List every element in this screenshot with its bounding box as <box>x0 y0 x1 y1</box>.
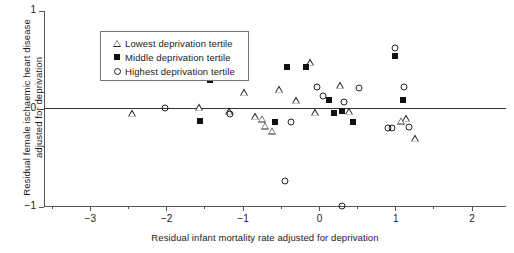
legend-label-2: Highest deprivation tertile <box>125 66 235 77</box>
legend-item-1[interactable]: Middle deprivation tertile <box>101 50 248 64</box>
legend-label-0: Lowest deprivation tertile <box>125 38 233 49</box>
triangle-open-icon <box>411 135 419 142</box>
x-tick-label-4: 1 <box>393 213 399 224</box>
square-filled-icon <box>400 97 406 103</box>
x-minor-tick-4 <box>357 206 358 209</box>
data-point <box>339 108 345 114</box>
data-point <box>303 64 309 70</box>
triangle-open-icon <box>292 97 300 104</box>
data-point <box>392 53 398 59</box>
data-point <box>240 89 248 96</box>
data-point <box>281 177 288 184</box>
data-point <box>288 118 295 125</box>
data-point <box>226 110 233 117</box>
data-point <box>400 97 406 103</box>
x-tick-1: −2 <box>166 206 167 211</box>
triangle-open-icon <box>128 109 136 116</box>
triangle-open-icon <box>113 40 121 47</box>
data-point <box>336 82 344 89</box>
circle-open-icon <box>401 84 408 91</box>
circle-open-icon <box>161 105 168 112</box>
x-minor-tick-2 <box>204 206 205 209</box>
x-tick-5: 2 <box>472 206 473 211</box>
square-filled-icon <box>350 119 356 125</box>
data-point <box>161 105 168 112</box>
triangle-open-icon <box>275 86 283 93</box>
data-point <box>268 127 276 134</box>
y-tick-label-2: −1 <box>25 200 36 211</box>
data-point <box>338 203 345 210</box>
circle-open-icon <box>288 118 295 125</box>
data-point <box>320 93 327 100</box>
data-point <box>389 124 396 131</box>
data-point <box>311 108 319 115</box>
circle-open-icon <box>338 203 345 210</box>
plot-area: 10−1 −3−2−1012 Lowest deprivation tertil… <box>44 11 506 207</box>
data-point <box>292 97 300 104</box>
scatter-plot-figure: Residual female ischaemic heart disease … <box>0 0 514 253</box>
circle-open-icon <box>406 123 413 130</box>
circle-open-icon <box>226 110 233 117</box>
square-filled-icon <box>284 64 290 70</box>
square-filled-icon <box>197 118 203 124</box>
x-tick-label-0: −3 <box>85 213 96 224</box>
circle-open-icon <box>314 84 321 91</box>
square-filled-icon <box>392 53 398 59</box>
data-point <box>341 99 348 106</box>
square-filled-icon <box>114 54 120 60</box>
legend-item-0[interactable]: Lowest deprivation tertile <box>101 36 248 50</box>
circle-open-icon <box>281 177 288 184</box>
y-tick-label-0: 1 <box>30 4 36 15</box>
y-tick-2: −1 <box>39 207 44 208</box>
x-minor-tick-3 <box>281 206 282 209</box>
data-point <box>411 135 419 142</box>
x-tick-label-5: 2 <box>469 213 475 224</box>
triangle-open-icon <box>268 127 276 134</box>
triangle-open-icon <box>345 107 353 114</box>
data-point <box>406 123 413 130</box>
data-point <box>314 84 321 91</box>
legend-label-1: Middle deprivation tertile <box>125 52 231 63</box>
square-filled-icon <box>339 108 345 114</box>
data-point <box>272 119 278 125</box>
square-filled-icon <box>272 119 278 125</box>
data-point <box>345 107 353 114</box>
data-point <box>197 118 203 124</box>
data-point <box>284 64 290 70</box>
x-axis-line <box>44 206 506 207</box>
data-point <box>401 84 408 91</box>
legend-symbol-1 <box>109 54 125 60</box>
x-tick-label-2: −1 <box>237 213 248 224</box>
x-axis-label: Residual infant mortality rate adjusted … <box>40 232 490 243</box>
data-point <box>195 104 203 111</box>
legend-item-2[interactable]: Highest deprivation tertile <box>101 64 248 78</box>
x-minor-tick-5 <box>433 206 434 209</box>
legend-symbol-2 <box>109 68 125 75</box>
y-tick-1: 0 <box>39 109 44 110</box>
x-minor-tick-1 <box>128 206 129 209</box>
triangle-open-icon <box>402 114 410 121</box>
circle-open-icon <box>391 45 398 52</box>
x-minor-tick-0 <box>52 206 53 209</box>
x-tick-3: 0 <box>319 206 320 211</box>
triangle-open-icon <box>240 89 248 96</box>
data-point <box>350 119 356 125</box>
circle-open-icon <box>389 124 396 131</box>
triangle-open-icon <box>195 104 203 111</box>
circle-open-icon <box>114 68 121 75</box>
data-point <box>356 85 363 92</box>
circle-open-icon <box>320 93 327 100</box>
data-point <box>275 86 283 93</box>
y-tick-0: 1 <box>39 11 44 12</box>
circle-open-icon <box>356 85 363 92</box>
circle-open-icon <box>341 99 348 106</box>
square-filled-icon <box>303 64 309 70</box>
data-point <box>331 110 337 116</box>
y-tick-label-1: 0 <box>30 102 36 113</box>
data-point <box>391 45 398 52</box>
data-point <box>128 109 136 116</box>
triangle-open-icon <box>311 108 319 115</box>
legend-box: Lowest deprivation tertileMiddle depriva… <box>100 31 249 81</box>
x-tick-4: 1 <box>395 206 396 211</box>
data-point <box>402 114 410 121</box>
